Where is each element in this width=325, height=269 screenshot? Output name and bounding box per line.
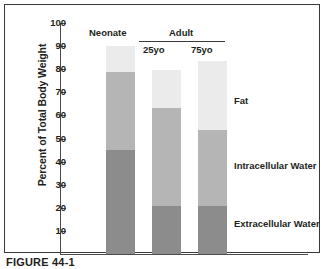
bar-segment-fat (152, 70, 181, 108)
adult-group-rule (139, 41, 225, 42)
bar-25yo (152, 70, 181, 254)
column-heading-adult: Adult (169, 27, 193, 38)
column-heading-neonate: Neonate (89, 27, 126, 38)
figure-container: Percent of Total Body Weight 10090807060… (0, 0, 325, 269)
column-heading-75yo: 75yo (191, 44, 213, 55)
legend-label-extracellular-water: Extracellular Water (234, 218, 320, 229)
bar-segment-fat (198, 61, 227, 130)
figure-caption: FIGURE 44-1 (6, 256, 75, 268)
chart-panel: Percent of Total Body Weight 10090807060… (4, 4, 320, 253)
bar-segment-intracellular-water (198, 130, 227, 205)
bar-segment-fat (106, 46, 135, 71)
bar-75yo (198, 61, 227, 254)
bar-segment-extracellular-water (106, 150, 135, 254)
bar-segment-intracellular-water (152, 108, 181, 205)
bar-segment-extracellular-water (152, 206, 181, 255)
bar-segment-intracellular-water (106, 72, 135, 151)
bar-segment-extracellular-water (198, 206, 227, 255)
legend-label-fat: Fat (234, 95, 248, 106)
column-heading-25yo: 25yo (143, 44, 165, 55)
x-axis-line (60, 254, 308, 255)
y-axis-tick-label-wrap: 100 (27, 18, 66, 19)
bar-neonate (106, 46, 135, 254)
legend-label-intracellular-water: Intracellular Water (234, 160, 317, 171)
